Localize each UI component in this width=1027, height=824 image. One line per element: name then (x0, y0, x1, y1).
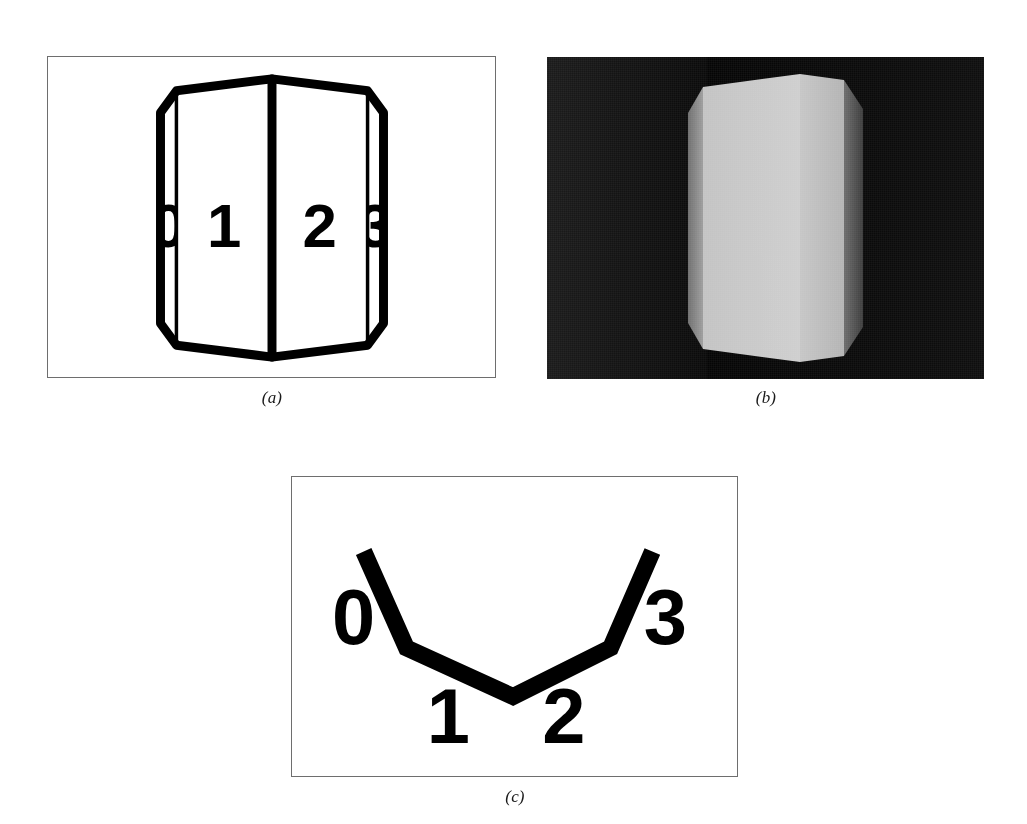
panel-c-label-0: 0 (332, 575, 375, 661)
panel-b-shaded (547, 57, 984, 379)
background-left (547, 57, 707, 379)
panel-a-label-2: 2 (303, 191, 337, 260)
caption-a: (a) (222, 388, 322, 408)
panel-c-label-3: 3 (644, 575, 687, 661)
panel-c-label-1: 1 (427, 673, 470, 759)
panel-c-label-2: 2 (542, 673, 585, 759)
panel-c-drawing: 0 1 2 3 (292, 477, 737, 776)
panel-a-label-1: 1 (207, 191, 241, 260)
panel-b-drawing (547, 57, 984, 379)
caption-c: (c) (465, 787, 565, 807)
shaded-face-0 (688, 87, 703, 349)
caption-b: (b) (716, 388, 816, 408)
panel-a-drawing: 1 2 0 3 (48, 57, 495, 377)
shaded-face-2 (800, 74, 844, 362)
panel-c-cross-section: 0 1 2 3 (291, 476, 738, 777)
shaded-face-1 (703, 74, 800, 362)
cross-section-polyline (364, 552, 653, 697)
shaded-face-3 (844, 80, 863, 356)
figure-root: 1 2 0 3 (a) (0, 0, 1027, 824)
panel-a-wireframe: 1 2 0 3 (47, 56, 496, 378)
